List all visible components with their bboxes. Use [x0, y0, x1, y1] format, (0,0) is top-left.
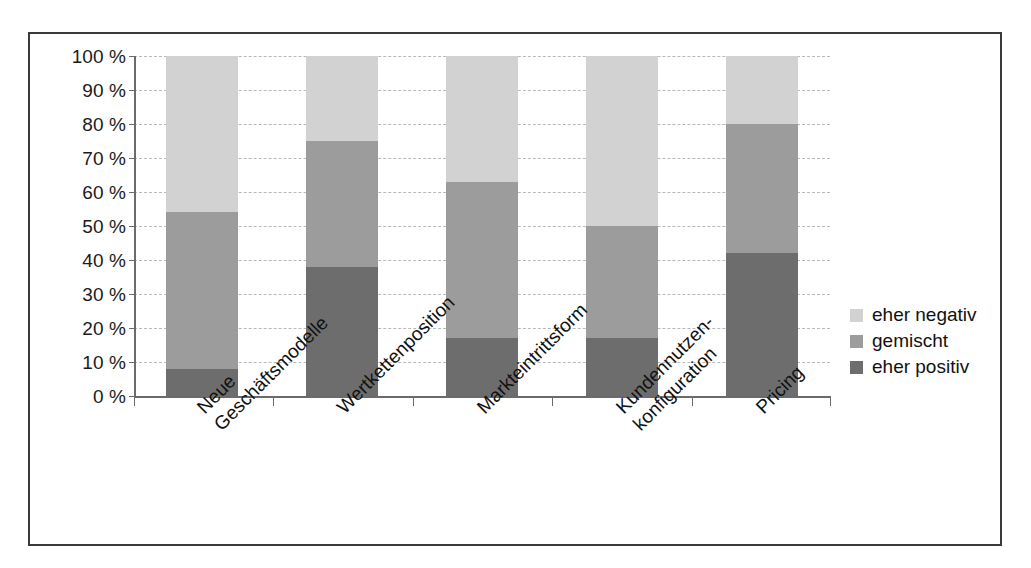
value-axis-tick-label: 70 % [54, 149, 126, 168]
value-axis-tick-label: 0 % [54, 387, 126, 406]
value-axis-tick [129, 56, 136, 57]
legend-item-eher-positiv[interactable]: eher positiv [850, 354, 1000, 380]
value-axis-tick-label: 50 % [54, 217, 126, 236]
legend-label: gemischt [872, 330, 948, 352]
value-axis-tick-label: 80 % [54, 115, 126, 134]
value-axis-tick-label: 30 % [54, 285, 126, 304]
bar-segment-eher-negativ[interactable] [726, 56, 798, 124]
value-axis [134, 56, 136, 397]
value-axis-tick [129, 362, 136, 363]
value-axis-tick-label: 10 % [54, 353, 126, 372]
legend-swatch-icon [850, 335, 863, 348]
value-axis-tick [129, 124, 136, 125]
value-axis-tick-label: 20 % [54, 319, 126, 338]
value-axis-tick [129, 192, 136, 193]
bar-segment-eher-negativ[interactable] [306, 56, 378, 141]
chart-legend: eher negativ gemischt eher positiv [850, 302, 1000, 380]
value-axis-tick [129, 158, 136, 159]
chart-figure-frame: 100 % 90 % 80 % 70 % 60 % 50 % 40 % 30 %… [28, 32, 1002, 546]
bar-segment-eher-negativ[interactable] [166, 56, 238, 212]
value-axis-tick-label: 100 % [54, 47, 126, 66]
value-axis-tick [129, 260, 136, 261]
value-axis-tick-label: 90 % [54, 81, 126, 100]
legend-swatch-icon [850, 309, 863, 322]
value-axis-tick [129, 294, 136, 295]
bar-segment-gemischt[interactable] [166, 212, 238, 368]
legend-item-gemischt[interactable]: gemischt [850, 328, 1000, 354]
bar-segment-eher-negativ[interactable] [586, 56, 658, 226]
value-axis-tick [129, 328, 136, 329]
value-axis-tick-label: 40 % [54, 251, 126, 270]
legend-item-eher-negativ[interactable]: eher negativ [850, 302, 1000, 328]
value-axis-tick-label: 60 % [54, 183, 126, 202]
legend-label: eher negativ [872, 304, 977, 326]
category-axis-labels: Neue Geschäftsmodelle Wertkettenposition… [134, 402, 834, 542]
legend-label: eher positiv [872, 356, 969, 378]
bar-segment-eher-negativ[interactable] [446, 56, 518, 182]
bar-segment-gemischt[interactable] [726, 124, 798, 253]
value-axis-tick [129, 226, 136, 227]
value-axis-labels: 100 % 90 % 80 % 70 % 60 % 50 % 40 % 30 %… [52, 56, 126, 396]
legend-swatch-icon [850, 361, 863, 374]
value-axis-tick [129, 90, 136, 91]
